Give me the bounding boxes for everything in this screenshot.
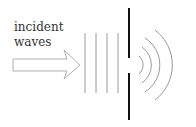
- diffraction-diagram: [0, 0, 196, 127]
- plane-wavefronts: [85, 33, 118, 93]
- arrow-icon: [13, 50, 80, 79]
- arc-4: [155, 30, 172, 100]
- arc-3: [145, 38, 160, 92]
- diffracted-wavefronts: [139, 30, 172, 100]
- arc-1: [139, 56, 143, 74]
